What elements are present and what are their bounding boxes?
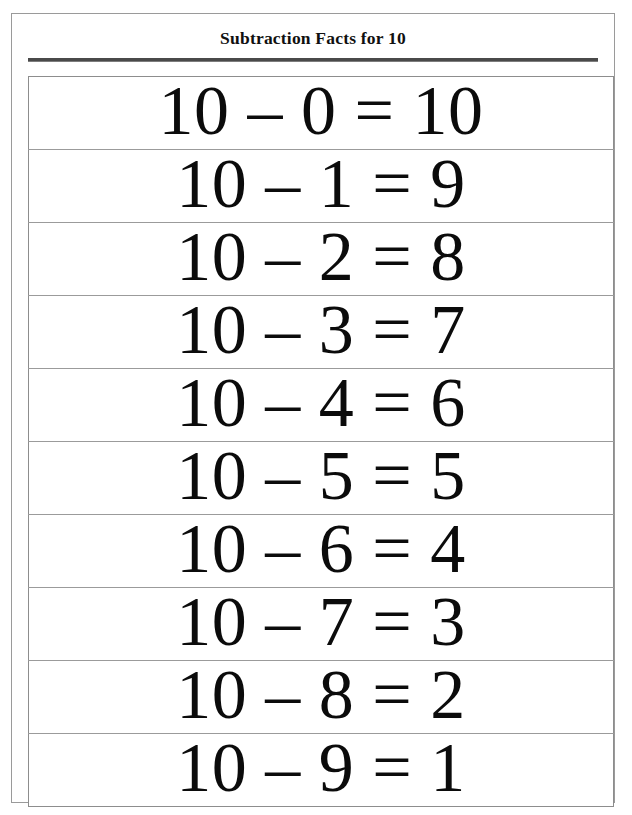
fact-equation: 10 – 3 = 7 <box>29 296 614 369</box>
fact-equation: 10 – 4 = 6 <box>29 369 614 442</box>
title-divider <box>28 58 598 62</box>
worksheet-page: Subtraction Facts for 10 10 – 0 = 10 10 … <box>11 13 615 803</box>
fact-equation: 10 – 9 = 1 <box>29 734 614 807</box>
table-row: 10 – 6 = 4 <box>29 515 614 588</box>
subtraction-facts-table: 10 – 0 = 10 10 – 1 = 9 10 – 2 = 8 10 – 3… <box>28 76 614 807</box>
fact-equation: 10 – 0 = 10 <box>29 77 614 150</box>
table-row: 10 – 0 = 10 <box>29 77 614 150</box>
fact-equation: 10 – 6 = 4 <box>29 515 614 588</box>
table-row: 10 – 3 = 7 <box>29 296 614 369</box>
table-row: 10 – 5 = 5 <box>29 442 614 515</box>
table-row: 10 – 1 = 9 <box>29 150 614 223</box>
table-row: 10 – 7 = 3 <box>29 588 614 661</box>
fact-equation: 10 – 5 = 5 <box>29 442 614 515</box>
fact-equation: 10 – 2 = 8 <box>29 223 614 296</box>
fact-equation: 10 – 7 = 3 <box>29 588 614 661</box>
table-row: 10 – 4 = 6 <box>29 369 614 442</box>
table-row: 10 – 2 = 8 <box>29 223 614 296</box>
page-title: Subtraction Facts for 10 <box>28 20 598 50</box>
fact-equation: 10 – 8 = 2 <box>29 661 614 734</box>
fact-equation: 10 – 1 = 9 <box>29 150 614 223</box>
worksheet-header: Subtraction Facts for 10 <box>28 20 598 75</box>
table-row: 10 – 8 = 2 <box>29 661 614 734</box>
table-row: 10 – 9 = 1 <box>29 734 614 807</box>
